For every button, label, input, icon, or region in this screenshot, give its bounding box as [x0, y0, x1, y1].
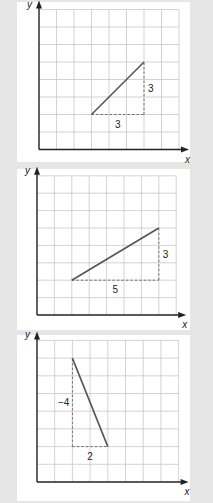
rise-label: 3 [163, 249, 169, 260]
y-axis-label: y [26, 0, 33, 10]
graph-panel-3: xy2−4 [17, 335, 190, 501]
y-axis-label: y [24, 165, 31, 176]
line-segment [92, 62, 145, 115]
run-label: 3 [115, 119, 121, 130]
x-arrow-icon [178, 312, 186, 318]
y-arrow-icon [34, 331, 40, 339]
run-label: 2 [87, 451, 93, 462]
graph-svg: xy53 [17, 169, 190, 330]
grid [39, 10, 179, 150]
graph-svg: xy33 [17, 2, 190, 162]
line-segment [72, 228, 159, 280]
y-arrow-icon [34, 167, 40, 175]
x-arrow-icon [181, 479, 189, 485]
x-arrow-icon [181, 147, 189, 153]
graph-panel-2: xy53 [17, 169, 190, 330]
grid [37, 340, 179, 482]
grid [37, 176, 176, 315]
y-axis-label: y [24, 329, 31, 340]
graph-svg: xy2−4 [17, 335, 190, 501]
x-axis-label: x [184, 154, 191, 165]
rise-label: 3 [148, 83, 154, 94]
graph-panel-1: xy33 [17, 2, 190, 162]
rise-label: −4 [58, 397, 70, 408]
x-axis-label: x [184, 486, 191, 497]
y-arrow-icon [36, 1, 42, 9]
run-label: 5 [113, 284, 119, 295]
x-axis-label: x [181, 319, 188, 330]
